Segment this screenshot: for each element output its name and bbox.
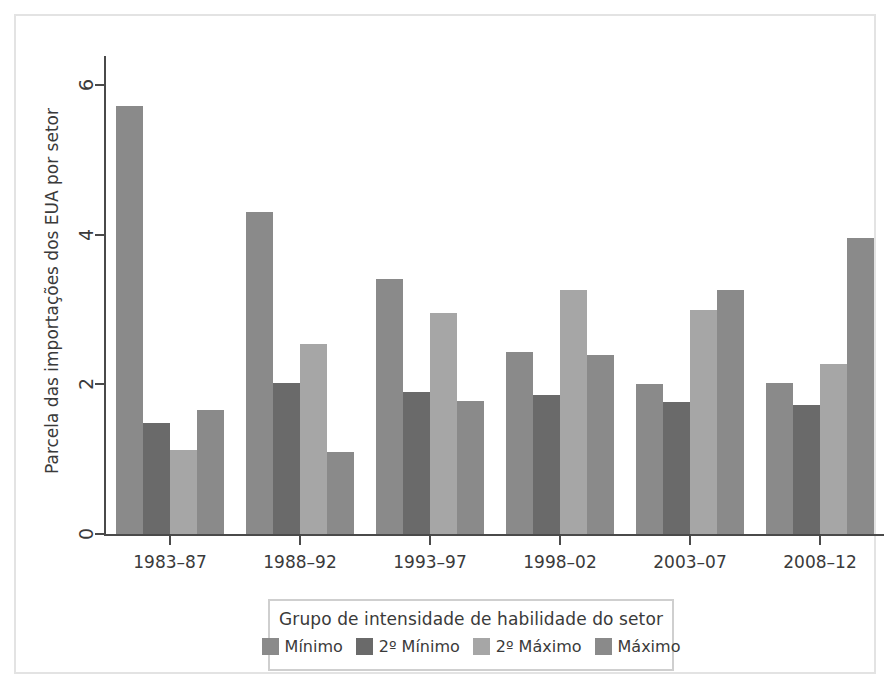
bar	[506, 352, 533, 534]
bar	[820, 364, 847, 534]
legend-item[interactable]: Mínimo	[262, 637, 343, 656]
x-tick-label: 2003–07	[653, 552, 726, 572]
legend-swatch-icon	[262, 638, 279, 655]
x-tick-label: 1993–97	[393, 552, 466, 572]
bar	[457, 401, 484, 534]
bar	[170, 450, 197, 534]
bar	[197, 410, 224, 534]
legend-items: Mínimo2º Mínimo2º MáximoMáximo	[270, 637, 672, 656]
figure-frame: Parcela das importações dos EUA por seto…	[14, 14, 876, 674]
x-tick	[299, 536, 301, 545]
legend-title: Grupo de intensidade de habilidade do se…	[270, 609, 672, 629]
bar	[690, 310, 717, 534]
chart-page: Parcela das importações dos EUA por seto…	[0, 0, 893, 690]
bar	[636, 384, 663, 534]
y-axis-title: Parcela das importações dos EUA por seto…	[42, 31, 62, 551]
x-tick	[819, 536, 821, 545]
legend-swatch-icon	[356, 638, 373, 655]
bar	[376, 279, 403, 534]
x-tick	[169, 536, 171, 545]
y-tick-label: 4	[75, 229, 97, 241]
y-tick-label: 2	[75, 378, 97, 390]
bar	[430, 313, 457, 534]
x-tick-label: 1998–02	[523, 552, 596, 572]
bar	[300, 344, 327, 534]
bar	[560, 290, 587, 534]
y-tick-label: 6	[75, 79, 97, 91]
bar	[533, 395, 560, 534]
bar	[793, 405, 820, 534]
x-tick	[559, 536, 561, 545]
legend-item[interactable]: 2º Mínimo	[356, 637, 460, 656]
bars-area	[104, 63, 884, 534]
legend-swatch-icon	[473, 638, 490, 655]
legend: Grupo de intensidade de habilidade do se…	[268, 599, 674, 671]
legend-label: 2º Mínimo	[379, 637, 460, 656]
bar	[327, 452, 354, 534]
x-tick	[689, 536, 691, 545]
bar	[246, 212, 273, 534]
legend-label: 2º Máximo	[496, 637, 582, 656]
bar	[143, 423, 170, 534]
bar	[847, 238, 874, 534]
bar	[403, 392, 430, 534]
bar	[273, 383, 300, 534]
legend-label: Máximo	[618, 637, 681, 656]
x-tick-label: 1983–87	[133, 552, 206, 572]
legend-label: Mínimo	[285, 637, 343, 656]
legend-item[interactable]: 2º Máximo	[473, 637, 582, 656]
bar	[663, 402, 690, 534]
legend-item[interactable]: Máximo	[595, 637, 681, 656]
bar	[717, 290, 744, 534]
bar	[116, 106, 143, 534]
x-tick-label: 1988–92	[263, 552, 336, 572]
x-axis-ticks: 1983–871988–921993–971998–022003–072008–…	[104, 536, 884, 576]
x-tick	[429, 536, 431, 545]
legend-swatch-icon	[595, 638, 612, 655]
y-tick-label: 0	[75, 528, 97, 540]
x-tick-label: 2008–12	[783, 552, 856, 572]
bar	[766, 383, 793, 534]
bar	[587, 355, 614, 534]
